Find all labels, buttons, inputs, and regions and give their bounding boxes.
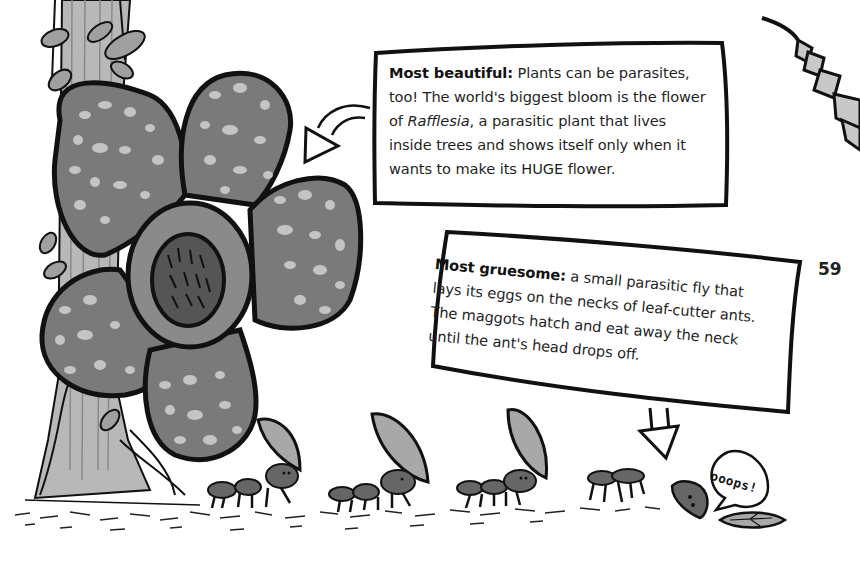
petal-right (250, 178, 361, 328)
petal-bottom (145, 330, 256, 459)
callout-line: Most beautiful: Plants can be parasites, (389, 61, 719, 85)
headless-ant (588, 469, 644, 502)
parasitic-fly-larva-tail (762, 18, 860, 150)
flower-center-core (152, 234, 224, 326)
page-number: 59 (818, 259, 842, 279)
callout-heading: Most beautiful: (389, 64, 513, 81)
leaf-cutter-ant-2 (329, 414, 428, 512)
callout-line: of Rafflesia, a parasitic plant that liv… (389, 109, 719, 133)
arrow-down-to-ant (640, 408, 678, 458)
leaf-cutter-ant-3 (457, 410, 546, 508)
callout-line: inside trees and shows itself only when … (389, 133, 719, 157)
petal-top (181, 73, 290, 205)
callout-line: too! The world's biggest bloom is the fl… (389, 85, 719, 109)
callout-most-beautiful: Most beautiful: Plants can be parasites,… (389, 61, 719, 181)
callout-line: wants to make its HUGE flower. (389, 157, 719, 181)
species-name: Rafflesia (407, 112, 469, 129)
arrow-to-flower (305, 105, 370, 162)
fallen-leaf (720, 512, 785, 528)
fallen-ant-head (672, 481, 707, 518)
